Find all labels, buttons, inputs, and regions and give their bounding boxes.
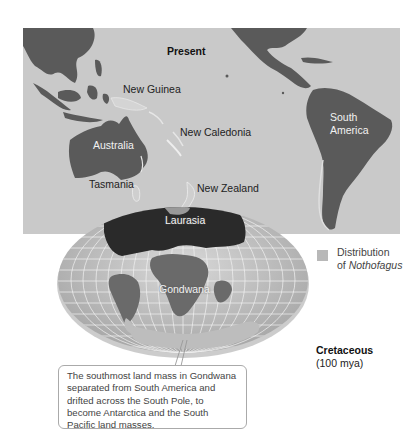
- period-label: Cretaceous (100 mya): [316, 344, 373, 369]
- legend-line2-prefix: of: [337, 259, 349, 271]
- label-australia: Australia: [93, 139, 134, 151]
- period-name: Cretaceous: [316, 344, 373, 357]
- label-new-zealand: New Zealand: [197, 182, 259, 194]
- present-map: Present New Guinea New Caledonia Austral…: [23, 28, 400, 234]
- period-age: (100 mya): [316, 357, 363, 369]
- distribution-legend: Distribution of Nothofagus: [337, 246, 402, 271]
- callout-box: The southmost land mass in Gondwana sepa…: [58, 365, 247, 429]
- label-tasmania: Tasmania: [89, 178, 134, 190]
- legend-species: Nothofagus: [349, 259, 403, 271]
- label-south-america: South America: [330, 111, 370, 136]
- label-gondwana: Gondwana: [159, 283, 210, 295]
- legend-line1: Distribution: [337, 246, 390, 258]
- distribution-legend-swatch: [317, 250, 328, 261]
- map-title: Present: [167, 45, 206, 57]
- label-new-guinea: New Guinea: [123, 83, 181, 95]
- label-new-caledonia: New Caledonia: [180, 126, 251, 138]
- label-laurasia: Laurasia: [165, 214, 205, 226]
- callout-text: The southmost land mass in Gondwana sepa…: [67, 370, 236, 430]
